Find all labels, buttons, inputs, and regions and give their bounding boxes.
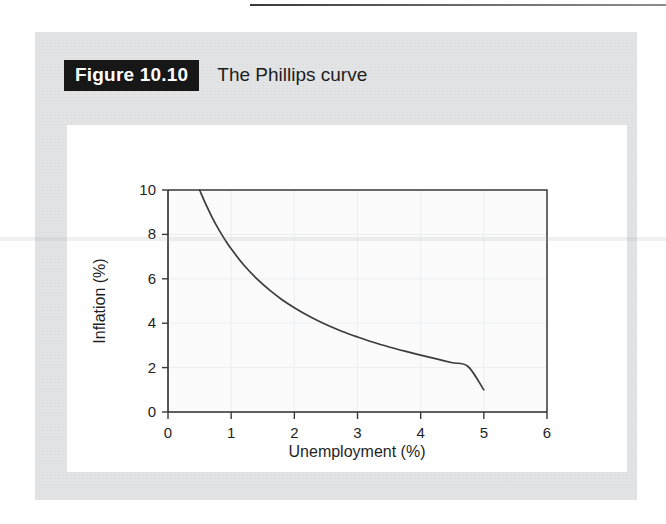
- x-tick-label: 3: [353, 424, 361, 441]
- x-tick-label: 5: [480, 424, 488, 441]
- y-tick-label: 10: [139, 181, 156, 198]
- x-tick-label: 6: [543, 424, 551, 441]
- figure-caption: The Phillips curve: [217, 64, 367, 86]
- plot-card: 0246810 0123456 Unemployment (%) Inflati…: [67, 125, 627, 472]
- x-tick-label: 4: [416, 424, 424, 441]
- y-tick-label: 2: [148, 359, 156, 376]
- scan-artifact-line: [250, 4, 666, 6]
- x-axis-ticks: [168, 412, 547, 419]
- y-tick-label: 6: [148, 270, 156, 287]
- x-axis-tick-labels: 0123456: [164, 424, 551, 441]
- y-axis-title: Inflation (%): [91, 258, 108, 343]
- figure-number-badge: Figure 10.10: [64, 60, 199, 91]
- x-tick-label: 0: [164, 424, 172, 441]
- y-axis-tick-labels: 0246810: [139, 181, 156, 420]
- y-tick-label: 8: [148, 225, 156, 242]
- x-axis-title: Unemployment (%): [289, 443, 426, 460]
- y-axis-ticks: [162, 190, 168, 412]
- figure-panel: Figure 10.10 The Phillips curve 0246810 …: [35, 32, 637, 500]
- y-tick-label: 4: [148, 314, 156, 331]
- figure-header: Figure 10.10 The Phillips curve: [64, 60, 367, 91]
- x-tick-label: 1: [227, 424, 235, 441]
- x-tick-label: 2: [290, 424, 298, 441]
- phillips-curve-chart: 0246810 0123456 Unemployment (%) Inflati…: [67, 125, 627, 472]
- y-tick-label: 0: [148, 403, 156, 420]
